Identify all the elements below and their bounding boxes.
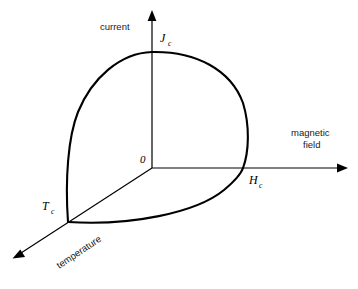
magnetic-field-axis-label-line1: magnetic <box>291 127 330 138</box>
hc-symbol: H <box>248 173 259 187</box>
hc-label: H c <box>248 173 263 190</box>
current-axis-arrowhead <box>148 10 157 21</box>
temperature-axis-label: temperature <box>54 233 103 270</box>
critical-surface-svg: current magnetic field temperature J c H… <box>0 0 358 289</box>
surface-curve-right-lobe <box>152 52 248 168</box>
tc-label: T c <box>42 199 55 216</box>
surface-curve-left-lobe <box>67 52 152 222</box>
hc-subscript: c <box>259 181 263 190</box>
jc-symbol: J <box>160 31 166 45</box>
critical-surface-diagram: current magnetic field temperature J c H… <box>0 0 358 289</box>
tc-subscript: c <box>51 207 55 216</box>
current-axis-label: current <box>100 21 130 32</box>
origin-label: 0 <box>140 153 146 165</box>
temperature-axis-label-group: temperature <box>54 233 103 270</box>
jc-subscript: c <box>168 39 172 48</box>
surface-curve-bottom-sweep <box>68 168 243 223</box>
tc-symbol: T <box>42 199 50 213</box>
jc-label: J c <box>160 31 172 48</box>
magnetic-field-axis-arrowhead <box>337 164 348 173</box>
magnetic-field-axis-label-line2: field <box>303 139 320 150</box>
